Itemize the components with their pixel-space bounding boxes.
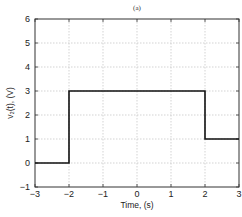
y-tick-label: 2 [25, 110, 30, 120]
y-tick-label: 1 [25, 134, 30, 144]
x-tick-label: 0 [134, 189, 139, 199]
x-tick-label: 1 [168, 189, 173, 199]
x-tick-label: −2 [64, 189, 74, 199]
x-axis-label: Time, (s) [120, 200, 153, 210]
y-tick-label: 3 [25, 86, 30, 96]
y-tick-label: 6 [25, 14, 30, 24]
y-tick-label: 0 [25, 158, 30, 168]
x-tick-label: 2 [202, 189, 207, 199]
x-tick-label: −3 [30, 189, 40, 199]
y-axis-label: v₂(t), (V) [5, 87, 15, 119]
x-tick-label: 3 [236, 189, 241, 199]
axis-ticks: −3−2−10123−10123456 [20, 14, 242, 199]
y-tick-label: 5 [25, 38, 30, 48]
grid-lines [35, 19, 239, 187]
chart-title: (a) [133, 4, 141, 12]
y-tick-label: −1 [20, 182, 30, 192]
y-tick-label: 4 [25, 62, 30, 72]
chart: (a) −3−2−10123−10123456 Time, (s) v₂(t),… [0, 0, 242, 217]
x-tick-label: −1 [98, 189, 108, 199]
